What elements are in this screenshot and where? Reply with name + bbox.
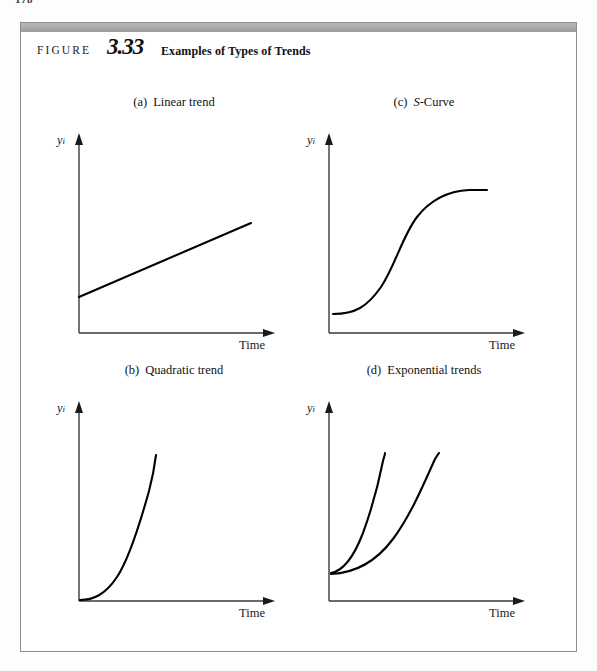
y-axis-arrowhead-icon — [325, 401, 333, 413]
panel-exponential-trends: (d)Exponential trends yi Time — [293, 363, 555, 628]
y-axis-label-sub-a: i — [63, 136, 66, 146]
figure-label-word: FIGURE — [37, 44, 91, 56]
series-quadratic — [80, 455, 156, 600]
chart-linear-trend — [43, 95, 305, 360]
panel-s-curve: (c)S-Curve yi Time — [293, 95, 555, 360]
x-axis-label-a: Time — [239, 338, 265, 353]
figure-number: 3.33 — [107, 34, 143, 60]
page-folio-number: 178 — [15, 0, 33, 3]
x-axis-label-c: Time — [489, 338, 515, 353]
panel-linear-trend: (a)Linear trend yi Time — [43, 95, 305, 360]
figure-container: FIGURE 3.33 Examples of Types of Trends … — [20, 22, 577, 652]
y-axis-label-sub-c: i — [313, 136, 316, 146]
series-exponential-slow — [331, 453, 439, 574]
x-axis-label-b: Time — [239, 606, 265, 621]
figure-banner — [21, 23, 576, 32]
y-axis-label-sub-b: i — [63, 404, 66, 414]
y-axis-label-c: yi — [307, 133, 315, 148]
chart-quadratic-trend — [43, 363, 305, 628]
figure-caption: Examples of Types of Trends — [161, 44, 311, 59]
y-axis-arrowhead-icon — [75, 133, 83, 145]
series-s-curve — [333, 190, 487, 314]
x-axis-arrowhead-icon — [263, 329, 275, 337]
y-axis-arrowhead-icon — [325, 133, 333, 145]
x-axis-arrowhead-icon — [513, 597, 525, 605]
y-axis-label-sub-d: i — [313, 404, 316, 414]
y-axis-label-b: yi — [57, 401, 65, 416]
x-axis-arrowhead-icon — [513, 329, 525, 337]
y-axis-label-a: yi — [57, 133, 65, 148]
chart-exponential-trends — [293, 363, 555, 628]
page-canvas: 178 FIGURE 3.33 Examples of Types of Tre… — [0, 0, 597, 671]
panel-quadratic-trend: (b)Quadratic trend yi Time — [43, 363, 305, 628]
y-axis-arrowhead-icon — [75, 401, 83, 413]
figure-header: FIGURE 3.33 Examples of Types of Trends — [21, 32, 576, 68]
y-axis-label-d: yi — [307, 401, 315, 416]
series-linear — [79, 223, 251, 297]
x-axis-label-d: Time — [489, 606, 515, 621]
chart-s-curve — [293, 95, 555, 360]
x-axis-arrowhead-icon — [263, 597, 275, 605]
